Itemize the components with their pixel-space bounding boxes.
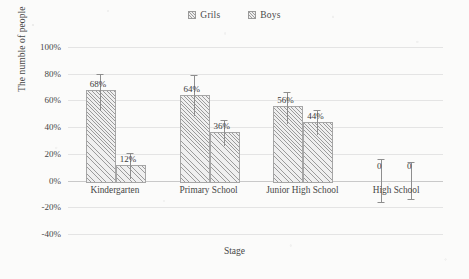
error-bar-cap-bottom: [378, 202, 385, 203]
legend-item-boys[interactable]: Boys: [248, 10, 280, 20]
y-axis-tick-label: -20%: [42, 202, 62, 212]
bar-girls[interactable]: [180, 95, 210, 182]
x-axis-category-label: Primary School: [162, 185, 256, 195]
legend-swatch-icon-boys: [248, 11, 256, 19]
chart-legend: Grils Boys: [0, 10, 469, 20]
bar-boys[interactable]: [210, 132, 240, 182]
y-axis-tick-label: 100%: [40, 42, 61, 52]
y-axis-tick-label: -40%: [42, 229, 62, 239]
gridline: [68, 234, 443, 235]
x-axis-category-labels: KindergartenPrimary SchoolJunior High Sc…: [68, 185, 443, 195]
data-label: 36%: [213, 121, 230, 131]
bar-girls[interactable]: [273, 106, 303, 183]
y-axis-tick-labels: 100%80%60%40%20%0%-20%-40%: [0, 47, 66, 234]
y-axis-tick-label: 40%: [45, 122, 62, 132]
bar-group: 64%36%: [162, 47, 256, 234]
bar-boys[interactable]: [303, 122, 333, 183]
x-axis-category-label: Kindergarten: [68, 185, 162, 195]
bar-girls[interactable]: [86, 90, 116, 183]
bar-group: 00: [349, 47, 443, 234]
legend-label-boys: Boys: [260, 10, 280, 20]
legend-item-girls[interactable]: Grils: [188, 10, 220, 20]
data-label: 68%: [90, 79, 107, 89]
y-axis-tick-label: 60%: [45, 95, 62, 105]
bar-groups: 68%12%64%36%56%44%00: [68, 47, 443, 234]
bar-chart: Grils Boys The numble of people 100%80%6…: [0, 0, 469, 279]
error-bar-cap-top: [284, 92, 291, 93]
data-label: 0: [407, 161, 412, 171]
data-label: 56%: [277, 95, 294, 105]
error-bar-cap-top: [190, 75, 197, 76]
data-label: 44%: [307, 111, 324, 121]
y-axis-tick-label: 0%: [49, 176, 61, 186]
data-label: 0: [377, 161, 382, 171]
plot-area: 68%12%64%36%56%44%00: [68, 47, 443, 234]
error-bar-cap-bottom: [408, 199, 415, 200]
error-bar-cap-top: [96, 74, 103, 75]
x-axis-category-label: High School: [349, 185, 443, 195]
y-axis-tick-label: 80%: [45, 69, 62, 79]
bar-group: 68%12%: [68, 47, 162, 234]
legend-swatch-icon-girls: [188, 11, 196, 19]
x-axis-category-label: Junior High School: [256, 185, 350, 195]
x-axis-title: Stage: [0, 246, 469, 256]
data-label: 64%: [183, 84, 200, 94]
data-label: 12%: [120, 154, 137, 164]
y-axis-tick-label: 20%: [45, 149, 62, 159]
error-bar: [194, 75, 195, 116]
bar-boys[interactable]: [116, 165, 146, 183]
bar-group: 56%44%: [256, 47, 350, 234]
legend-label-girls: Grils: [200, 10, 220, 20]
